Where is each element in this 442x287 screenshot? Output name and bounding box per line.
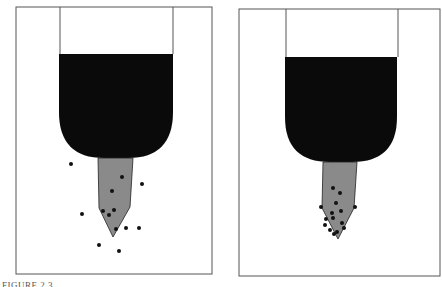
ink-dot [69, 162, 73, 166]
ink-dot [335, 230, 339, 234]
ink-dot [334, 201, 338, 205]
ink-dot [114, 227, 118, 231]
panel-left [16, 7, 212, 274]
ink-dot [80, 212, 84, 216]
ink-dot [97, 243, 101, 247]
ink-dot [328, 228, 332, 232]
panel-right [239, 9, 440, 276]
ink-dot [331, 186, 335, 190]
ink-dot [323, 223, 327, 227]
ink-reservoir [285, 57, 397, 162]
ink-dot [319, 205, 323, 209]
ink-dot [117, 249, 121, 253]
ink-dot [330, 211, 334, 215]
ink-dot [342, 226, 346, 230]
ink-dot [120, 175, 124, 179]
ink-dot [339, 209, 343, 213]
pen-diagram [0, 0, 442, 287]
ink-dot [324, 217, 328, 221]
ink-dot [353, 205, 357, 209]
ink-dot [124, 226, 128, 230]
ink-reservoir [59, 54, 173, 158]
ink-dot [101, 209, 105, 213]
ink-dot [112, 208, 116, 212]
ink-dot [110, 189, 114, 193]
ink-dot [331, 216, 335, 220]
ink-dot [140, 182, 144, 186]
ink-dot [340, 221, 344, 225]
figure-caption: FIGURE 2.3 [2, 281, 53, 287]
ink-dot [107, 213, 111, 217]
ink-dot [338, 191, 342, 195]
ink-dot [137, 226, 141, 230]
